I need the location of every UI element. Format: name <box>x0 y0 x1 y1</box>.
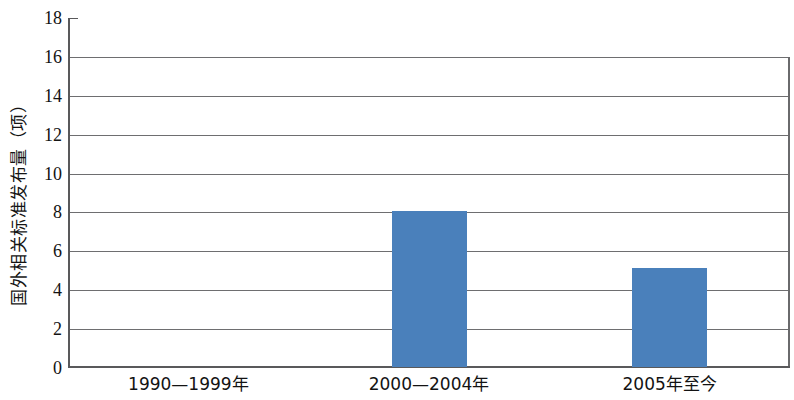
y-tick-label-18: 18 <box>6 9 62 27</box>
gridline-14 <box>68 96 790 97</box>
y-tick-label-4: 4 <box>6 281 62 299</box>
gridline-10 <box>68 174 790 175</box>
x-tick-label-1: 2000—2004年 <box>369 374 490 394</box>
gridline-16 <box>68 57 790 58</box>
y-tick-label-14: 14 <box>6 87 62 105</box>
y-tick-label-0: 0 <box>6 359 62 377</box>
chart-page: 国外相关标准发布量（项） 024681012141618 1990—1999年2… <box>0 0 794 400</box>
y-tick-label-12: 12 <box>6 126 62 144</box>
y-tick-label-6: 6 <box>6 242 62 260</box>
bar-2 <box>632 268 707 367</box>
x-tick-label-0: 1990—1999年 <box>128 374 249 394</box>
y-tick-label-2: 2 <box>6 320 62 338</box>
plot-area <box>68 18 790 368</box>
y-tick-label-8: 8 <box>6 203 62 221</box>
y-tick-label-10: 10 <box>6 165 62 183</box>
plot-right-border <box>788 57 790 368</box>
x-tick-label-2: 2005年至今 <box>623 374 717 394</box>
gridline-12 <box>68 135 790 136</box>
y-tick-label-16: 16 <box>6 48 62 66</box>
y-axis-line <box>68 18 70 368</box>
bar-1 <box>392 211 467 367</box>
